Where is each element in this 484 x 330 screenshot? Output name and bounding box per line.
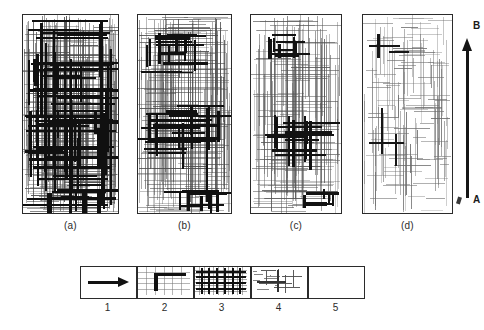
axis-label-a: A: [473, 194, 480, 205]
legend-item-5: 5: [308, 266, 363, 315]
right-arrow-icon: [88, 281, 120, 284]
panel-a-label: (a): [22, 220, 119, 231]
legend-box-5: [308, 266, 365, 299]
legend-item-2: 2: [137, 266, 192, 315]
panel-d-network: [362, 14, 453, 214]
legend-number-1: 1: [80, 302, 135, 313]
legend-box-2: [137, 266, 194, 299]
panel-c-network: [250, 14, 342, 214]
legend-box-1: [80, 266, 137, 299]
legend-item-4: 4: [251, 266, 306, 315]
right-arrow-head-icon: [118, 277, 129, 287]
fracture-network-figure: (a) (b) (c) (d) B A 1: [0, 0, 484, 330]
legend-number-2: 2: [137, 302, 192, 313]
panel-a-network: [22, 14, 119, 214]
legend-item-1: 1: [80, 266, 135, 315]
arrow-shaft: [466, 51, 469, 198]
panel-b-network: [137, 14, 232, 214]
panel-a: [22, 14, 119, 214]
legend-number-4: 4: [251, 302, 306, 313]
arrow-head-icon: [462, 38, 472, 51]
sparse-joint-grid-icon: [252, 267, 304, 295]
panel-c-label: (c): [250, 220, 342, 231]
panel-d-label: (d): [362, 220, 453, 231]
thick-joint-corner-icon: [138, 267, 190, 295]
legend-number-5: 5: [308, 302, 363, 313]
panel-d: [362, 14, 453, 214]
legend-box-4: [251, 266, 308, 299]
legend-number-3: 3: [194, 302, 249, 313]
panel-b: [137, 14, 232, 214]
legend-box-3: [194, 266, 251, 299]
panel-b-label: (b): [137, 220, 232, 231]
panel-c: [250, 14, 342, 214]
legend-item-3: 3: [194, 266, 249, 315]
dense-joint-grid-icon: [195, 267, 247, 295]
axis-label-b: B: [473, 20, 480, 31]
axis-tick: [456, 197, 462, 205]
